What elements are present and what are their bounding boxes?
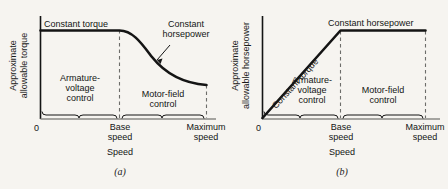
- x-axis-title-b: Speed: [312, 147, 372, 157]
- y-axis-title-b: Approximate allowable horsepower: [230, 16, 251, 116]
- motor-field-control-brace-a: [122, 115, 204, 119]
- constant-horsepower-leader-a: [157, 45, 170, 60]
- maximum-speed-tick-label-b: Maximum speed: [397, 122, 448, 142]
- constant-horsepower-label-b: Constant horsepower: [328, 18, 414, 28]
- constant-horsepower-label-a: Constant horsepower: [150, 19, 222, 39]
- motor-field-control-label-b: Motor-field control: [348, 85, 418, 105]
- armature-voltage-control-label-a: Armature- voltage control: [48, 73, 112, 103]
- armature-voltage-control-brace-b: [264, 112, 338, 119]
- motor-field-control-label-a: Motor-field control: [128, 89, 198, 109]
- armature-voltage-control-label-b: Armature- voltage control: [282, 75, 342, 105]
- constant-torque-label-a: Constant torque: [44, 19, 108, 29]
- panel-a: Approximate allowable torque Constant to…: [0, 0, 224, 189]
- panel-b: Approximate allowable horsepower Constan…: [224, 0, 448, 189]
- panel-caption-b: (b): [322, 166, 362, 177]
- origin-label-b: 0: [256, 123, 261, 133]
- motor-field-control-brace-b: [343, 115, 423, 119]
- x-axis-title-a: Speed: [90, 147, 150, 157]
- base-speed-tick-label-a: Base speed: [96, 122, 144, 142]
- figure-root: Approximate allowable torque Constant to…: [0, 0, 448, 189]
- panel-caption-a: (a): [100, 166, 140, 177]
- base-speed-tick-label-b: Base speed: [317, 122, 365, 142]
- origin-label-a: 0: [34, 123, 39, 133]
- armature-voltage-control-brace-a: [42, 112, 117, 119]
- y-axis-title-a: Approximate allowable torque: [8, 18, 29, 114]
